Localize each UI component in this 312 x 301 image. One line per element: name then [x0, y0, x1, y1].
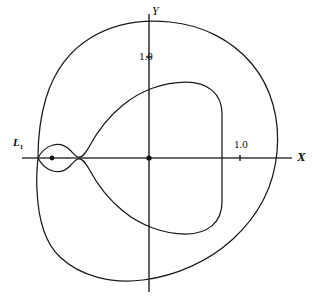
x-axis-tick-label: 1.0 — [234, 139, 248, 150]
zero-velocity-curve-figure: Y X 1.0 1.0 L1 — [0, 0, 312, 301]
lagrange-point-letter: L — [13, 136, 20, 148]
lagrange-point-subscript: 1 — [20, 143, 24, 151]
axes-group — [22, 14, 292, 292]
lagrange-point-label: L1 — [13, 137, 23, 151]
plot-canvas — [0, 0, 312, 301]
x-axis-label: X — [297, 150, 306, 163]
y-axis-label: Y — [152, 5, 159, 17]
outer-zero-velocity-curve — [37, 21, 278, 281]
y-axis-tick-label: 1.0 — [139, 51, 153, 62]
tick-marks-group — [146, 57, 240, 161]
secondary-mass-marker — [50, 156, 55, 161]
origin-marker — [146, 155, 151, 160]
curves-group — [37, 21, 278, 281]
